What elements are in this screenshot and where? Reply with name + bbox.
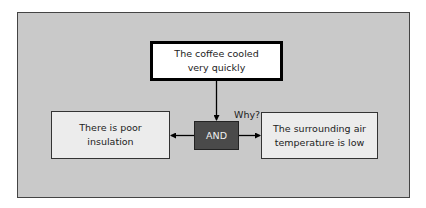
- cause-node-right: The surrounding air temperature is low: [261, 112, 378, 159]
- cause-node-left-text: There is poor insulation: [66, 121, 155, 149]
- why-label: Why?: [234, 109, 260, 120]
- effect-node: The coffee cooled very quickly: [150, 41, 283, 81]
- connectors: [0, 0, 426, 208]
- cause-node-left: There is poor insulation: [51, 111, 170, 159]
- cause-node-right-text: The surrounding air temperature is low: [268, 122, 371, 150]
- and-gate: AND: [194, 121, 239, 150]
- effect-node-text: The coffee cooled very quickly: [163, 47, 270, 75]
- and-gate-text: AND: [206, 129, 227, 143]
